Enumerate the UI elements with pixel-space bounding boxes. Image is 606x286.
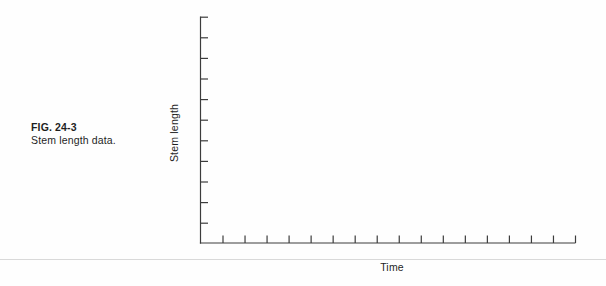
empty-chart-axes — [0, 0, 606, 286]
page-rule-line — [0, 259, 606, 260]
figure-page: FIG. 24-3 Stem length data. Stem length … — [0, 0, 606, 286]
x-axis-label: Time — [380, 261, 404, 273]
